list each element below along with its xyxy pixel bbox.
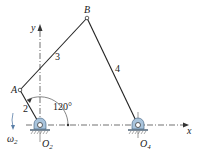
pivot-o4-icon	[136, 123, 141, 128]
label-link-4: 4	[115, 63, 120, 74]
label-a: A	[10, 84, 18, 95]
label-b: B	[84, 4, 90, 15]
label-omega-2: ω2	[7, 133, 18, 146]
four-bar-linkage-diagram: B A y x 3 4 2 120° O2 O4 ω2	[0, 0, 201, 152]
y-axis-arrow-icon	[38, 24, 43, 31]
joint-a-icon	[18, 88, 22, 92]
omega-arrowhead-icon	[11, 125, 15, 130]
angle-dot	[67, 124, 69, 126]
label-link-2: 2	[23, 103, 28, 114]
link-4	[87, 18, 138, 125]
y-axis	[38, 24, 43, 125]
omega-arrow	[12, 113, 13, 127]
label-o2: O2	[42, 138, 53, 151]
label-link-3: 3	[55, 51, 60, 62]
label-o4: O4	[140, 138, 151, 151]
label-y-axis: y	[30, 22, 36, 33]
label-x-axis: x	[186, 125, 192, 136]
joint-b-icon	[85, 16, 89, 20]
label-angle: 120°	[53, 101, 72, 112]
x-axis	[26, 123, 189, 128]
pivot-o2-icon	[38, 123, 43, 128]
